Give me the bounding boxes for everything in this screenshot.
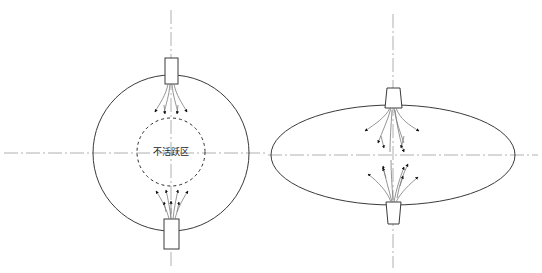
vessel-flow-diagram: 不活跃区 xyxy=(0,0,542,273)
right-panel-ellipsoidal-vessel xyxy=(268,14,538,268)
right-top-nozzle xyxy=(385,88,402,108)
left-lower-streamlines xyxy=(156,190,188,219)
left-bottom-nozzle xyxy=(164,219,179,249)
right-upper-streamlines xyxy=(365,108,419,152)
inactive-zone-label: 不活跃区 xyxy=(153,146,189,157)
left-top-nozzle xyxy=(165,58,178,84)
diagram-canvas: 不活跃区 xyxy=(0,0,542,273)
left-panel-spherical-vessel: 不活跃区 xyxy=(4,10,268,266)
right-bottom-nozzle xyxy=(386,202,401,224)
